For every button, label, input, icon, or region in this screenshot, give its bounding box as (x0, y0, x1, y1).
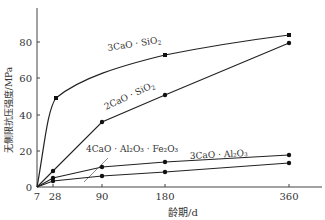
series-label-c3a: 3CaO · Al₂O₃ (190, 148, 249, 161)
y-tick-label: 80 (19, 37, 32, 48)
y-axis-label: 无侧限抗压强度/MPa (3, 66, 14, 153)
series-label-c2s: 2CaO · SiO2 (103, 80, 157, 113)
x-tick-label: 90 (96, 191, 109, 202)
series-label-c3s: 3CaO · SiO2 (107, 35, 162, 54)
x-tick-label: 28 (49, 191, 62, 202)
y-tick-label: 40 (19, 110, 32, 121)
y-tick-label: 0 (26, 182, 32, 193)
x-tick-label: 7 (34, 191, 40, 202)
y-tick-label: 60 (19, 73, 32, 84)
series-label-c4af: 4CaO · Al₂O₃ · Fe₂O₃ (86, 144, 179, 154)
x-axis-label: 龄期/d (168, 206, 198, 218)
x-tick-label: 360 (279, 191, 298, 202)
x-tick-label: 180 (155, 191, 174, 202)
chart: 80 60 40 20 0 7 28 90 180 360 龄期/d 无侧限抗压… (0, 0, 325, 220)
y-tick-label: 20 (19, 146, 32, 157)
chart-svg: 80 60 40 20 0 7 28 90 180 360 龄期/d 无侧限抗压… (0, 0, 325, 220)
